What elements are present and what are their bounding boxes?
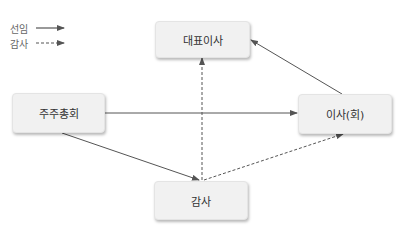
node-auditor: 감사 [154,181,248,220]
edge-auditor-to-board [204,134,343,180]
node-shareholders-label: 주주총회 [39,105,79,121]
node-ceo: 대표이사 [155,21,250,58]
edge-shareholders-to-auditor [62,133,199,180]
edge-board-to-ceo [251,40,342,94]
node-auditor-label: 감사 [191,193,211,209]
node-shareholders-meeting: 주주총회 [12,93,105,133]
node-ceo-label: 대표이사 [183,32,223,48]
legend-label-appoint: 선임 [10,21,28,36]
legend-label-audit: 감사 [10,36,28,51]
governance-diagram: 선임 감사 대표이사 주주총회 이사(회) 감사 [0,0,404,235]
node-board: 이사(회) [298,94,392,134]
node-board-label: 이사(회) [326,106,365,122]
